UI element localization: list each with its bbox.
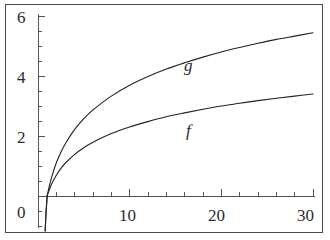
- x-axis-tick-label-10: 10: [119, 207, 136, 224]
- y-axis-tick-label-0: 0: [17, 204, 26, 221]
- y-axis-tick-label-4: 4: [17, 69, 26, 86]
- x-axis-tick-label-20: 20: [208, 207, 225, 224]
- plot-frame-border: [5, 4, 323, 233]
- y-axis-tick-label-2: 2: [17, 129, 26, 146]
- y-axis-tick-label-6: 6: [17, 9, 26, 26]
- curve-label-f: f: [186, 122, 191, 139]
- x-axis-tick-label-30: 30: [297, 207, 314, 224]
- figure-container: 6 4 2 0 10 20 30 g f: [0, 0, 330, 240]
- curve-label-g: g: [184, 57, 193, 74]
